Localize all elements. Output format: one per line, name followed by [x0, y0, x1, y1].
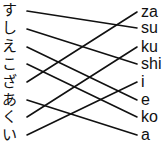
- line-e-e: [27, 47, 137, 100]
- line-za-za: [27, 12, 137, 82]
- romaji-ko: ko: [141, 109, 158, 125]
- romaji-za: za: [141, 4, 158, 20]
- romaji-shi: shi: [141, 56, 161, 72]
- romaji-a: a: [141, 127, 150, 141]
- romaji-e: e: [141, 92, 150, 108]
- romaji-i: i: [141, 74, 145, 90]
- romaji-ku: ku: [141, 39, 158, 55]
- romaji-su: su: [141, 20, 158, 36]
- line-su-su: [27, 11, 137, 28]
- line-a-a: [27, 100, 137, 135]
- line-ku-ku: [27, 47, 137, 117]
